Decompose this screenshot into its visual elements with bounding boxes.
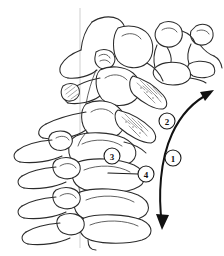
callout-1[interactable]: 1 [165, 150, 181, 166]
callout-2-label: 2 [165, 117, 170, 127]
anatomy-figure: 1 2 3 4 [0, 0, 224, 256]
callout-4[interactable]: 4 [138, 166, 154, 182]
callout-3-label: 3 [110, 152, 115, 162]
callout-1-label: 1 [171, 154, 176, 164]
callout-3[interactable]: 3 [104, 148, 120, 164]
vertebral-column-illustration: 1 2 3 4 [0, 0, 224, 256]
callout-4-label: 4 [144, 170, 149, 180]
callout-2[interactable]: 2 [159, 113, 175, 129]
